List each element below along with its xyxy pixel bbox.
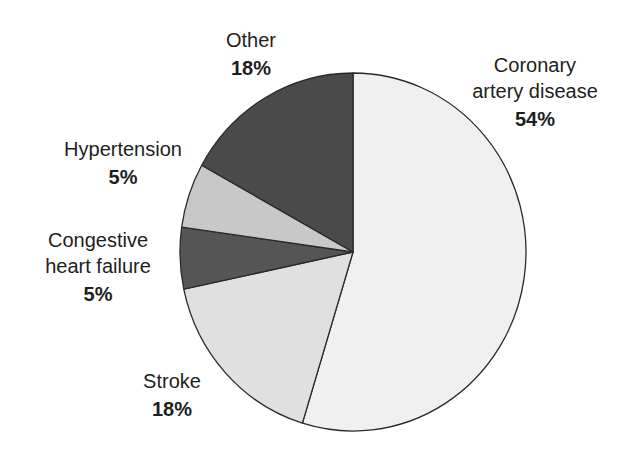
label-congestive-heart-failure: Congestive heart failure 5% <box>28 230 168 304</box>
label-name-line2: heart failure <box>28 256 168 276</box>
label-other: Other 18% <box>200 30 302 78</box>
label-percent: 18% <box>125 399 219 419</box>
label-name: Coronary <box>455 55 615 75</box>
label-name: Hypertension <box>50 139 196 159</box>
label-percent: 5% <box>28 284 168 304</box>
label-name-line2: artery disease <box>455 81 615 101</box>
label-stroke: Stroke 18% <box>125 371 219 419</box>
label-name: Congestive <box>28 230 168 250</box>
label-name: Stroke <box>125 371 219 391</box>
label-hypertension: Hypertension 5% <box>50 139 196 187</box>
label-percent: 5% <box>50 167 196 187</box>
label-coronary-artery-disease: Coronary artery disease 54% <box>455 55 615 129</box>
label-percent: 18% <box>200 58 302 78</box>
label-percent: 54% <box>455 109 615 129</box>
label-name: Other <box>200 30 302 50</box>
